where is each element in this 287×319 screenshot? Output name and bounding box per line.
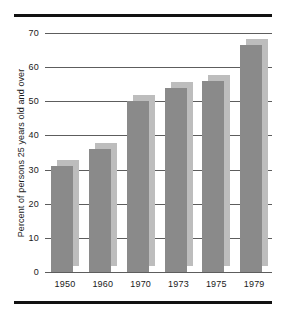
gridline: 20 — [45, 204, 272, 205]
bar-chart-figure: Percent of persons 25 years old and over… — [0, 0, 287, 319]
gridline: 70 — [45, 33, 272, 34]
y-axis-tick-label: 40 — [29, 130, 39, 140]
bar — [165, 88, 187, 272]
x-axis-tick-label: 1960 — [86, 279, 120, 289]
x-axis-tick-label: 1979 — [237, 279, 271, 289]
gridline: 40 — [45, 135, 272, 136]
gridline: 30 — [45, 170, 272, 171]
bar — [51, 166, 73, 272]
bottom-divider-rule — [14, 301, 272, 304]
gridline: 10 — [45, 238, 272, 239]
y-axis-tick-label: 70 — [29, 28, 39, 38]
plot-area: 010203040506070195019601970197319751979 — [45, 33, 272, 272]
bar — [89, 149, 111, 272]
bar — [202, 81, 224, 272]
y-axis-tick-label: 0 — [34, 267, 39, 277]
bar-group: 1970 — [127, 95, 155, 272]
x-axis-tick-label: 1973 — [162, 279, 196, 289]
top-divider-rule — [14, 14, 272, 17]
axis-baseline: 0 — [45, 272, 272, 273]
bar — [240, 45, 262, 272]
x-axis-tick-label: 1975 — [199, 279, 233, 289]
y-axis-tick-label: 10 — [29, 233, 39, 243]
y-axis-title-text: Percent of persons 25 years old and over — [16, 68, 26, 237]
bar — [127, 101, 149, 272]
y-axis-tick-label: 20 — [29, 199, 39, 209]
x-axis-tick-label: 1950 — [48, 279, 82, 289]
y-axis-tick-label: 50 — [29, 96, 39, 106]
bar-group: 1950 — [51, 160, 79, 272]
x-axis-tick-label: 1970 — [124, 279, 158, 289]
bar-group: 1960 — [89, 143, 117, 272]
gridline: 60 — [45, 67, 272, 68]
bar-group: 1979 — [240, 39, 268, 272]
bar-group: 1973 — [165, 82, 193, 272]
gridline: 50 — [45, 101, 272, 102]
y-axis-tick-label: 30 — [29, 165, 39, 175]
y-axis-title: Percent of persons 25 years old and over — [14, 33, 28, 272]
bar-group: 1975 — [202, 75, 230, 272]
y-axis-tick-label: 60 — [29, 62, 39, 72]
